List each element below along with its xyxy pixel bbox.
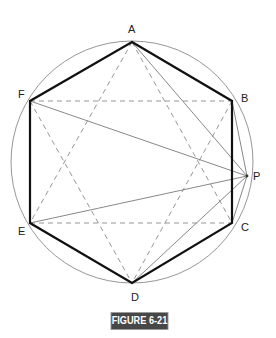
line-ep [30,176,247,223]
figure-caption: FIGURE 6-21 [111,313,167,329]
circumscribed-circle [11,41,253,283]
dashed-line-fd [30,101,132,283]
hexagon [30,42,232,283]
lines-to-p [30,42,247,283]
line-bp [232,101,247,176]
line-dp [132,176,247,283]
point-p-marker [246,175,249,178]
dashed-construction-lines [30,42,232,283]
hexagon-construction-diagram: A B C D E F P [0,0,276,338]
label-a: A [128,23,136,35]
label-e: E [18,225,25,237]
label-f: F [18,88,25,100]
dashed-line-bd [132,101,232,283]
dashed-line-ae [30,42,132,223]
label-p: P [253,170,260,182]
label-b: B [241,92,248,104]
label-c: C [241,221,249,233]
dashed-line-ac [132,42,232,223]
label-d: D [131,291,139,303]
